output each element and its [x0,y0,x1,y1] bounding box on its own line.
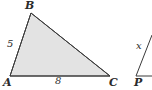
triangle-abc-shape [10,13,110,76]
side-length-label-ac: 8 [55,76,61,86]
vertex-label-a: A [3,77,12,88]
figure-canvas [0,0,152,90]
vertex-label-c: C [109,77,118,88]
geometry-figure: B A C 5 8 P x [0,0,152,90]
side-length-label-x: x [136,41,142,51]
vertex-label-b: B [25,0,34,11]
vertex-label-p: P [134,77,142,88]
side-length-label-ab: 5 [7,39,13,49]
